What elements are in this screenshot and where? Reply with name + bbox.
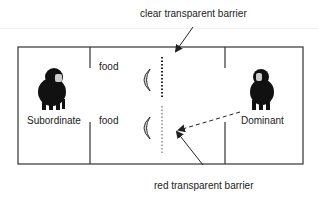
chimpanzee-icon [38, 68, 66, 110]
experiment-diagram [0, 0, 318, 200]
subordinate-label: Subordinate [27, 116, 81, 126]
food-label-top: food [99, 62, 118, 72]
clear-barrier-label: clear transparent barrier [140, 9, 247, 19]
banana-icon [144, 117, 150, 139]
red-barrier-label: red transparent barrier [154, 181, 254, 191]
food-label-bottom: food [99, 116, 118, 126]
banana-icon [144, 69, 150, 91]
red-barrier-arrow [177, 132, 203, 165]
dominant-label: Dominant [241, 116, 284, 126]
chimpanzee-icon [250, 69, 274, 110]
dominant-gaze-arrow [179, 112, 240, 130]
